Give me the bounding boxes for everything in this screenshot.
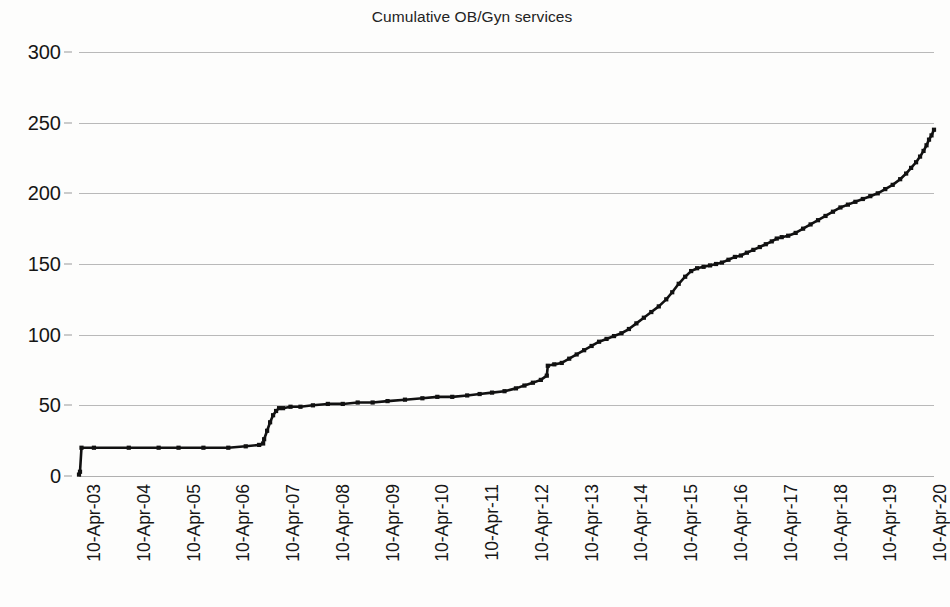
- series-line: [79, 130, 934, 475]
- data-point-marker: [420, 396, 424, 400]
- data-point-marker: [514, 386, 518, 390]
- data-point-marker: [924, 143, 928, 147]
- data-point-marker: [257, 443, 261, 447]
- data-point-marker: [816, 218, 820, 222]
- x-tick-label: 10-Apr-20: [932, 484, 950, 562]
- data-point-marker: [634, 321, 638, 325]
- y-tick-label: 0: [50, 466, 61, 486]
- data-point-marker: [701, 265, 705, 269]
- data-point-marker: [714, 262, 718, 266]
- x-tick-label: 10-Apr-03: [86, 484, 104, 562]
- x-tick-label: 10-Apr-19: [882, 484, 900, 562]
- figure-caption: [46, 596, 546, 607]
- data-point-marker: [932, 128, 936, 132]
- data-point-marker: [831, 210, 835, 214]
- data-point-marker: [590, 344, 594, 348]
- data-point-marker: [597, 340, 601, 344]
- data-point-marker: [298, 405, 302, 409]
- data-point-marker: [720, 260, 724, 264]
- data-point-marker: [281, 406, 285, 410]
- y-tick-mark: [64, 264, 72, 265]
- data-point-marker: [226, 446, 230, 450]
- data-point-marker: [465, 393, 469, 397]
- data-point-marker: [201, 446, 205, 450]
- data-point-marker: [450, 395, 454, 399]
- data-point-marker: [708, 263, 712, 267]
- x-tick-label: 10-Apr-08: [335, 484, 353, 562]
- x-tick-label: 10-Apr-11: [484, 484, 502, 561]
- x-tick-label: 10-Apr-07: [285, 484, 303, 562]
- x-tick-label: 10-Apr-05: [186, 484, 204, 562]
- data-point-marker: [78, 470, 82, 474]
- data-point-marker: [921, 149, 925, 153]
- data-point-marker: [627, 327, 631, 331]
- y-tick-mark: [64, 193, 72, 194]
- data-point-marker: [733, 255, 737, 259]
- data-point-marker: [92, 446, 96, 450]
- data-point-marker: [745, 251, 749, 255]
- x-tick-label: 10-Apr-15: [683, 484, 701, 562]
- data-point-marker: [751, 248, 755, 252]
- data-point-marker: [683, 275, 687, 279]
- data-point-marker: [567, 357, 571, 361]
- data-point-marker: [341, 402, 345, 406]
- data-point-marker: [726, 258, 730, 262]
- data-point-marker: [861, 197, 865, 201]
- y-tick-label: 150: [28, 254, 61, 274]
- data-point-marker: [689, 269, 693, 273]
- data-point-marker: [909, 166, 913, 170]
- data-point-marker: [642, 316, 646, 320]
- x-tick-label: 10-Apr-12: [534, 484, 552, 562]
- data-point-marker: [176, 446, 180, 450]
- data-point-marker: [582, 348, 586, 352]
- data-point-marker: [265, 429, 269, 433]
- data-point-marker: [552, 362, 556, 366]
- data-point-marker: [403, 398, 407, 402]
- data-point-marker: [775, 236, 779, 240]
- data-point-marker: [268, 420, 272, 424]
- x-axis: 10-Apr-0310-Apr-0410-Apr-0510-Apr-0610-A…: [79, 476, 934, 607]
- x-tick-label: 10-Apr-10: [434, 484, 452, 562]
- data-point-marker: [612, 334, 616, 338]
- data-point-marker: [539, 378, 543, 382]
- data-point-marker: [918, 154, 922, 158]
- data-point-marker: [326, 402, 330, 406]
- data-point-marker: [244, 444, 248, 448]
- y-tick-label: 300: [28, 42, 61, 62]
- data-point-marker: [371, 400, 375, 404]
- y-tick-mark: [64, 52, 72, 53]
- data-point-marker: [801, 227, 805, 231]
- data-point-marker: [490, 391, 494, 395]
- data-point-marker: [311, 403, 315, 407]
- data-point-marker: [664, 297, 668, 301]
- data-point-marker: [695, 266, 699, 270]
- data-point-marker: [560, 361, 564, 365]
- data-point-marker: [546, 364, 550, 368]
- data-point-marker: [764, 242, 768, 246]
- data-point-marker: [288, 405, 292, 409]
- data-point-marker: [838, 205, 842, 209]
- x-tick-label: 10-Apr-18: [833, 484, 851, 562]
- data-point-marker: [929, 133, 933, 137]
- data-point-marker: [575, 352, 579, 356]
- y-tick-label: 200: [28, 183, 61, 203]
- data-point-marker: [898, 177, 902, 181]
- data-series-layer: [79, 52, 934, 476]
- data-point-marker: [758, 245, 762, 249]
- y-tick-mark: [64, 334, 72, 335]
- data-point-marker: [786, 234, 790, 238]
- data-point-marker: [808, 222, 812, 226]
- data-point-marker: [261, 441, 265, 445]
- data-point-marker: [876, 191, 880, 195]
- data-point-marker: [914, 160, 918, 164]
- x-tick-label: 10-Apr-16: [733, 484, 751, 562]
- data-point-marker: [127, 446, 131, 450]
- data-point-marker: [670, 290, 674, 294]
- data-point-marker: [79, 446, 83, 450]
- data-point-marker: [657, 304, 661, 308]
- data-point-marker: [823, 214, 827, 218]
- data-point-marker: [157, 446, 161, 450]
- data-point-marker: [846, 203, 850, 207]
- data-point-marker: [927, 138, 931, 142]
- y-tick-mark: [64, 476, 72, 477]
